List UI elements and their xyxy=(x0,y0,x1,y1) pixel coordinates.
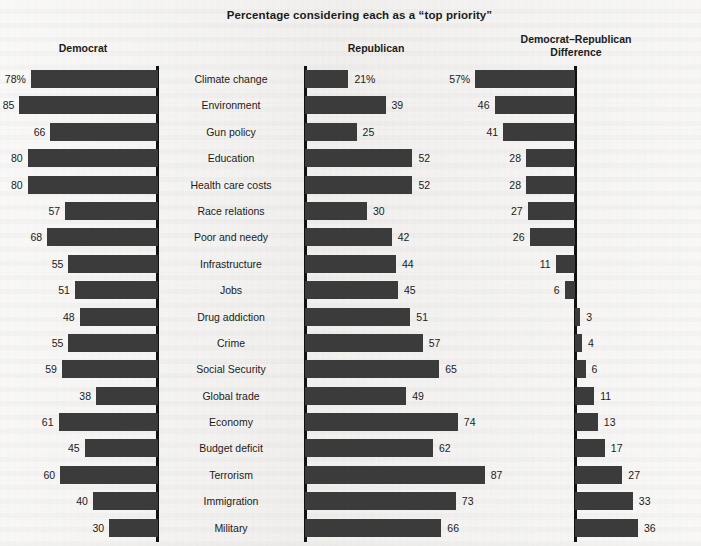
bar-value-republican: 30 xyxy=(373,202,385,220)
category-label: Crime xyxy=(160,330,302,356)
bar-republican xyxy=(305,413,458,431)
bar-row-difference: 4 xyxy=(470,330,680,356)
category-label: Environment xyxy=(160,92,302,118)
bar-republican xyxy=(305,334,423,352)
chart-page: Percentage considering each as a “top pr… xyxy=(0,0,701,546)
bar-difference xyxy=(575,413,598,431)
bar-row-difference: 36 xyxy=(470,515,680,541)
bar-value-republican: 49 xyxy=(412,387,424,405)
bar-democrat xyxy=(96,387,158,405)
bar-democrat xyxy=(62,360,158,378)
bar-value-democrat: 61 xyxy=(42,413,54,431)
bar-democrat xyxy=(28,176,158,194)
bar-value-democrat: 66 xyxy=(34,123,46,141)
bar-value-difference: 4 xyxy=(588,334,594,352)
bar-row-republican: 73 xyxy=(305,488,495,514)
bar-row-democrat: 68 xyxy=(8,224,158,250)
bar-difference xyxy=(575,519,638,537)
bar-row-difference: 13 xyxy=(470,409,680,435)
bar-democrat xyxy=(50,123,158,141)
bar-row-democrat: 80 xyxy=(8,172,158,198)
bar-difference xyxy=(575,439,605,457)
bar-row-republican: 39 xyxy=(305,92,495,118)
bar-republican xyxy=(305,123,357,141)
bar-democrat xyxy=(31,70,158,88)
bar-value-difference: 6 xyxy=(592,360,598,378)
bar-difference xyxy=(575,308,580,326)
column-header-democrat: Democrat xyxy=(8,42,158,55)
column-header-difference: Democrat–Republican Difference xyxy=(492,33,660,58)
bar-row-democrat: 60 xyxy=(8,462,158,488)
bar-row-republican: 42 xyxy=(305,224,495,250)
bar-difference xyxy=(556,255,575,273)
bar-row-difference: 11 xyxy=(470,251,680,277)
category-label: Gun policy xyxy=(160,119,302,145)
bar-difference xyxy=(495,96,576,114)
bar-row-difference: 27 xyxy=(470,198,680,224)
bar-democrat xyxy=(93,492,158,510)
bar-value-democrat: 38 xyxy=(79,387,91,405)
bar-value-democrat: 60 xyxy=(44,466,56,484)
bar-democrat xyxy=(68,255,158,273)
bar-value-republican: 42 xyxy=(398,228,410,246)
bar-value-difference: 41 xyxy=(487,123,499,141)
bar-row-difference: 3 xyxy=(470,304,680,330)
bar-value-republican: 52 xyxy=(418,149,430,167)
bar-row-republican: 52 xyxy=(305,145,495,171)
bar-value-democrat: 40 xyxy=(76,492,88,510)
bar-row-democrat: 38 xyxy=(8,383,158,409)
category-label: Drug addiction xyxy=(160,304,302,330)
bar-value-democrat: 78% xyxy=(5,70,26,88)
bar-row-difference: 33 xyxy=(470,488,680,514)
category-label: Climate change xyxy=(160,66,302,92)
bar-value-difference: 27 xyxy=(628,466,640,484)
bar-value-difference: 46 xyxy=(478,96,490,114)
bar-row-difference: 11 xyxy=(470,383,680,409)
bar-row-difference: 28 xyxy=(470,172,680,198)
bar-republican xyxy=(305,228,392,246)
category-label: Education xyxy=(160,145,302,171)
bar-difference xyxy=(475,70,575,88)
bar-democrat xyxy=(47,228,158,246)
chart-title: Percentage considering each as a “top pr… xyxy=(0,9,701,21)
bar-democrat xyxy=(60,466,158,484)
bar-row-republican: 44 xyxy=(305,251,495,277)
bar-value-difference: 11 xyxy=(600,387,611,405)
bar-value-difference: 33 xyxy=(639,492,651,510)
bar-value-democrat: 51 xyxy=(58,281,70,299)
bar-difference xyxy=(526,176,575,194)
bar-row-democrat: 48 xyxy=(8,304,158,330)
bar-row-democrat: 59 xyxy=(8,356,158,382)
bar-row-difference: 17 xyxy=(470,435,680,461)
bar-republican xyxy=(305,149,412,167)
column-header-difference-line2: Difference xyxy=(492,46,660,59)
bar-row-democrat: 61 xyxy=(8,409,158,435)
bar-value-republican: 51 xyxy=(416,308,428,326)
bar-value-democrat: 68 xyxy=(30,228,42,246)
bar-row-republican: 51 xyxy=(305,304,495,330)
bar-difference xyxy=(503,123,575,141)
category-label: Terrorism xyxy=(160,462,302,488)
bar-value-difference: 6 xyxy=(554,281,560,299)
bar-difference xyxy=(575,387,594,405)
category-label: Infrastructure xyxy=(160,251,302,277)
bar-democrat xyxy=(68,334,158,352)
bar-difference xyxy=(575,466,622,484)
bar-value-democrat: 57 xyxy=(48,202,60,220)
bar-republican xyxy=(305,308,410,326)
bar-row-difference: 28 xyxy=(470,145,680,171)
bar-republican xyxy=(305,281,398,299)
bar-value-republican: 45 xyxy=(404,281,416,299)
bar-row-difference: 26 xyxy=(470,224,680,250)
bar-value-democrat: 59 xyxy=(45,360,57,378)
bar-row-democrat: 55 xyxy=(8,330,158,356)
column-header-difference-line1: Democrat–Republican xyxy=(492,33,660,46)
bar-value-democrat: 45 xyxy=(68,439,80,457)
category-label: Jobs xyxy=(160,277,302,303)
bar-row-democrat: 51 xyxy=(8,277,158,303)
panel-democrat: 78%8566808057685551485559386145604030 xyxy=(8,66,158,541)
bar-row-difference: 6 xyxy=(470,356,680,382)
bar-difference xyxy=(528,202,575,220)
category-label: Budget deficit xyxy=(160,435,302,461)
bar-value-republican: 39 xyxy=(392,96,404,114)
